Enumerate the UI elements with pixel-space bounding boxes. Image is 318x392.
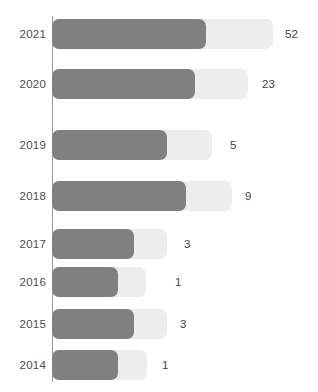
bar-value-label-2021: 52 bbox=[285, 17, 298, 51]
category-label-2018: 2018 bbox=[20, 179, 46, 213]
bar-value-label-2020: 23 bbox=[262, 67, 275, 101]
bar-row: 20173 bbox=[0, 227, 318, 261]
bar-row: 20189 bbox=[0, 179, 318, 213]
bar-fill-2018[interactable] bbox=[52, 181, 186, 211]
bar-fill-2015[interactable] bbox=[52, 309, 134, 339]
category-label-2020: 2020 bbox=[20, 67, 46, 101]
category-label-2015: 2015 bbox=[20, 307, 46, 341]
category-label-2019: 2019 bbox=[20, 128, 46, 162]
bar-row: 20195 bbox=[0, 128, 318, 162]
bar-value-label-2019: 5 bbox=[230, 128, 236, 162]
bar-value-label-2014: 1 bbox=[162, 348, 168, 382]
category-label-2014: 2014 bbox=[20, 348, 46, 382]
bar-value-label-2017: 3 bbox=[184, 227, 190, 261]
bar-row: 20153 bbox=[0, 307, 318, 341]
bar-row: 202023 bbox=[0, 67, 318, 101]
bar-fill-2016[interactable] bbox=[52, 267, 118, 297]
bar-fill-2019[interactable] bbox=[52, 130, 167, 160]
category-label-2016: 2016 bbox=[20, 265, 46, 299]
bar-value-label-2016: 1 bbox=[175, 265, 181, 299]
bar-fill-2020[interactable] bbox=[52, 69, 195, 99]
bar-fill-2021[interactable] bbox=[52, 19, 206, 49]
bar-row: 202152 bbox=[0, 17, 318, 51]
category-label-2021: 2021 bbox=[20, 17, 46, 51]
bar-row: 20141 bbox=[0, 348, 318, 382]
category-label-2017: 2017 bbox=[20, 227, 46, 261]
bar-chart: 2021522020232019520189201732016120153201… bbox=[0, 0, 318, 392]
bar-row: 20161 bbox=[0, 265, 318, 299]
bar-fill-2014[interactable] bbox=[52, 350, 118, 380]
bar-fill-2017[interactable] bbox=[52, 229, 134, 259]
chart-plot-area: 2021522020232019520189201732016120153201… bbox=[0, 0, 318, 392]
bar-value-label-2015: 3 bbox=[180, 307, 186, 341]
bar-value-label-2018: 9 bbox=[245, 179, 251, 213]
